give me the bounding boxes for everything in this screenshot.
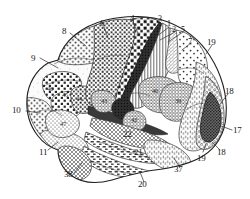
label-18-bottom: 18 <box>217 148 226 157</box>
label-19-top: 19 <box>207 38 216 47</box>
label-42: 42 <box>131 117 137 124</box>
label-19-bottom: 19 <box>197 154 206 163</box>
brodmann-brain-map: 8 9 6 4 3 1 2 5 7 19 18 17 18 19 10 11 3… <box>0 0 250 199</box>
label-39: 39 <box>175 98 181 105</box>
label-22: 22 <box>123 130 132 139</box>
label-3: 3 <box>158 15 162 23</box>
label-45: 45 <box>62 92 68 99</box>
label-44: 44 <box>76 96 82 103</box>
label-46: 46 <box>47 86 53 93</box>
label-17: 17 <box>233 126 242 135</box>
label-8: 8 <box>62 27 66 36</box>
label-41: 41 <box>121 106 127 113</box>
brain-diagram-svg <box>0 0 250 199</box>
label-5: 5 <box>181 26 185 34</box>
label-20: 20 <box>138 180 147 189</box>
label-4: 4 <box>130 14 134 23</box>
label-10: 10 <box>12 106 21 115</box>
label-21: 21 <box>134 148 143 157</box>
label-38: 38 <box>64 170 73 179</box>
label-40: 40 <box>152 88 158 95</box>
label-18-top: 18 <box>225 87 234 96</box>
label-7: 7 <box>188 37 192 46</box>
label-43: 43 <box>101 98 107 105</box>
label-1: 1 <box>167 20 171 28</box>
label-6: 6 <box>100 19 104 28</box>
brain-regions <box>0 0 250 199</box>
label-47: 47 <box>60 121 66 128</box>
label-9: 9 <box>31 54 35 63</box>
label-11: 11 <box>39 148 47 157</box>
label-37: 37 <box>174 165 183 174</box>
label-2: 2 <box>172 26 176 34</box>
